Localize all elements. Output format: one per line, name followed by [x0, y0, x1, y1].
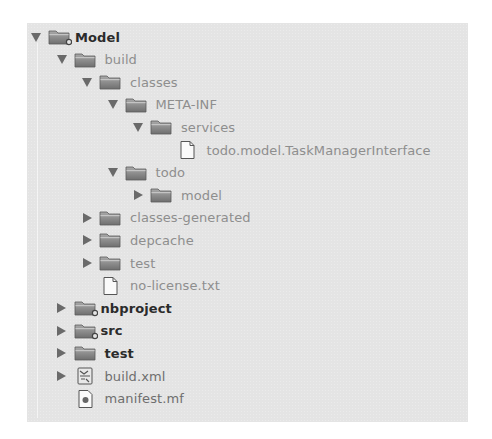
folder-icon [125, 96, 149, 114]
tree-item-label: model [181, 188, 222, 203]
ant-build-file-icon [74, 367, 98, 385]
tree-item-label: todo [156, 165, 186, 180]
project-folder-icon [74, 299, 98, 317]
tree-item[interactable]: META-INF [107, 94, 218, 116]
tree-item[interactable]: no-license.txt [81, 275, 220, 297]
tree-item-label: classes-generated [130, 210, 251, 225]
tree-item-label: depcache [130, 233, 194, 248]
tree-item[interactable]: todo.model.TaskManagerInterface [158, 139, 431, 161]
tree-guide-line [37, 43, 38, 418]
tree-item-label: todo.model.TaskManagerInterface [207, 143, 431, 158]
folder-icon [99, 254, 123, 272]
project-folder-icon [74, 322, 98, 340]
tree-item-label: src [101, 323, 123, 338]
file-icon [176, 141, 200, 159]
collapsed-arrow-icon[interactable] [132, 189, 144, 201]
project-folder-icon [48, 28, 72, 46]
tree-item[interactable]: build.xml [56, 365, 166, 387]
tree-item[interactable]: depcache [81, 229, 194, 251]
folder-icon [99, 231, 123, 249]
tree-item-label: services [181, 120, 235, 135]
tree-item[interactable]: classes-generated [81, 207, 251, 229]
tree-item-label: Model [75, 30, 120, 45]
folder-icon [74, 344, 98, 362]
tree-item[interactable]: services [132, 116, 235, 138]
folder-icon [125, 164, 149, 182]
tree-item-label: build.xml [105, 369, 166, 384]
collapsed-arrow-icon[interactable] [81, 257, 93, 269]
tree-item[interactable]: classes [81, 71, 178, 93]
tree-item-label: no-license.txt [130, 278, 220, 293]
file-icon [99, 277, 123, 295]
tree-item-label: META-INF [156, 97, 218, 112]
project-tree-panel: ModelbuildclassesMETA-INFservicestodo.mo… [27, 23, 468, 422]
tree-item[interactable]: build [56, 49, 137, 71]
collapsed-arrow-icon[interactable] [81, 212, 93, 224]
tree-item[interactable]: todo [107, 162, 186, 184]
folder-icon [150, 118, 174, 136]
folder-icon [99, 209, 123, 227]
expanded-arrow-icon[interactable] [107, 99, 119, 111]
tree-item[interactable]: test [56, 342, 134, 364]
collapsed-arrow-icon[interactable] [56, 302, 68, 314]
collapsed-arrow-icon[interactable] [81, 234, 93, 246]
tree-item[interactable]: nbproject [56, 297, 172, 319]
tree-item[interactable]: model [132, 184, 222, 206]
folder-icon [74, 51, 98, 69]
expanded-arrow-icon[interactable] [132, 121, 144, 133]
manifest-file-icon [74, 390, 98, 408]
collapsed-arrow-icon[interactable] [56, 347, 68, 359]
tree-item-label: test [105, 346, 134, 361]
tree-item-label: test [130, 256, 155, 271]
folder-icon [99, 73, 123, 91]
tree-item[interactable]: Model [30, 26, 120, 48]
tree-item[interactable]: manifest.mf [56, 388, 184, 410]
collapsed-arrow-icon[interactable] [56, 370, 68, 382]
folder-icon [150, 186, 174, 204]
collapsed-arrow-icon[interactable] [56, 325, 68, 337]
expanded-arrow-icon[interactable] [81, 76, 93, 88]
expanded-arrow-icon[interactable] [30, 31, 42, 43]
tree-item-label: manifest.mf [105, 391, 184, 406]
tree-item[interactable]: test [81, 252, 155, 274]
tree-item-label: classes [130, 75, 178, 90]
tree-item[interactable]: src [56, 320, 123, 342]
expanded-arrow-icon[interactable] [107, 167, 119, 179]
tree-item-label: nbproject [101, 301, 172, 316]
expanded-arrow-icon[interactable] [56, 54, 68, 66]
tree-item-label: build [105, 52, 137, 67]
